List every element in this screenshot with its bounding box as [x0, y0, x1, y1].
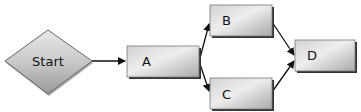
node-a-label: A	[142, 54, 151, 69]
node-b: B	[210, 5, 274, 38]
edge-c-d	[272, 61, 294, 92]
edge-a-c	[200, 64, 209, 91]
node-c: C	[210, 78, 274, 111]
node-start-label: Start	[32, 54, 64, 69]
node-d-label: D	[307, 48, 317, 63]
edge-a-b	[200, 24, 209, 58]
node-b-label: B	[222, 13, 231, 28]
node-a: A	[127, 46, 201, 79]
flowchart-canvas: Start A B C D	[0, 0, 361, 112]
node-start: Start	[5, 30, 93, 96]
node-d: D	[295, 40, 357, 73]
node-c-label: C	[222, 87, 231, 102]
edge-b-d	[272, 22, 294, 55]
